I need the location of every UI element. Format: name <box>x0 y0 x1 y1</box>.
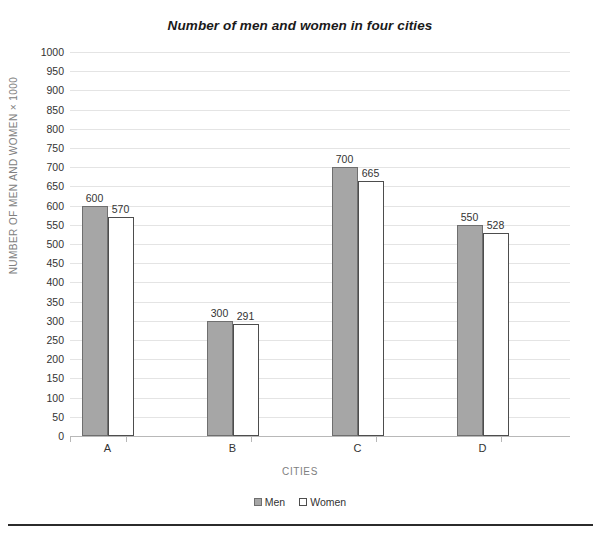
x-axis-tick <box>376 436 377 442</box>
bar-men-c <box>332 167 358 436</box>
y-axis-tick-label: 50 <box>28 412 64 422</box>
plot-area: 600570300291700665550528 <box>70 52 570 436</box>
y-axis-tick-label: 200 <box>28 354 64 364</box>
y-axis-tick-label: 600 <box>28 201 64 211</box>
x-axis-tick-label-b: B <box>203 442 263 454</box>
x-axis-tick-label-a: A <box>78 442 138 454</box>
y-axis-tick-label: 500 <box>28 239 64 249</box>
x-axis-tick <box>251 436 252 442</box>
bar-value-label: 528 <box>469 219 523 231</box>
gridline <box>70 186 570 187</box>
bar-value-label: 700 <box>318 153 372 165</box>
bar-value-label: 600 <box>68 192 122 204</box>
y-axis-tick-label: 150 <box>28 373 64 383</box>
y-axis-tick-label: 750 <box>28 143 64 153</box>
bar-men-a <box>82 206 108 436</box>
y-axis-tick-label: 650 <box>28 181 64 191</box>
y-axis-tick-label: 800 <box>28 124 64 134</box>
y-axis-tick-label: 900 <box>28 85 64 95</box>
x-axis-tick <box>70 436 71 442</box>
y-axis-tick-label: 950 <box>28 66 64 76</box>
y-axis-tick-label: 400 <box>28 277 64 287</box>
bar-value-label: 291 <box>219 310 273 322</box>
x-axis-tick-label-c: C <box>328 442 388 454</box>
legend-label: Women <box>310 496 346 508</box>
legend-swatch-icon <box>299 498 307 506</box>
y-axis-tick-label: 0 <box>28 431 64 441</box>
bar-women-b <box>233 324 259 436</box>
legend-swatch-icon <box>254 498 262 506</box>
bar-men-b <box>207 321 233 436</box>
legend-item-women[interactable]: Women <box>299 496 346 508</box>
bar-women-d <box>483 233 509 436</box>
bar-women-a <box>108 217 134 436</box>
legend-label: Men <box>265 496 285 508</box>
bar-value-label: 665 <box>344 167 398 179</box>
legend-item-men[interactable]: Men <box>254 496 285 508</box>
chart-legend: MenWomen <box>0 496 600 508</box>
x-axis-title: CITIES <box>0 466 600 477</box>
y-axis-title: NUMBER OF MEN AND WOMEN × 1000 <box>8 0 19 386</box>
y-axis-tick-label: 250 <box>28 335 64 345</box>
gridline <box>70 71 570 72</box>
gridline <box>70 436 570 437</box>
gridline <box>70 110 570 111</box>
y-axis-tick-label: 100 <box>28 393 64 403</box>
x-axis-tick <box>126 436 127 442</box>
bar-women-c <box>358 181 384 436</box>
x-axis-tick <box>501 436 502 442</box>
x-axis-tick-label-d: D <box>453 442 513 454</box>
chart-title: Number of men and women in four cities <box>0 18 600 33</box>
gridline <box>70 129 570 130</box>
y-axis-tick-label: 700 <box>28 162 64 172</box>
bottom-divider <box>8 524 593 526</box>
y-axis-tick-label: 450 <box>28 258 64 268</box>
gridline <box>70 148 570 149</box>
y-axis-tick-label: 350 <box>28 297 64 307</box>
bar-chart: Number of men and women in four cities 0… <box>0 0 600 538</box>
gridline <box>70 90 570 91</box>
y-axis-tick-label: 550 <box>28 220 64 230</box>
y-axis-tick-label: 300 <box>28 316 64 326</box>
bar-men-d <box>457 225 483 436</box>
gridline <box>70 52 570 53</box>
bar-value-label: 570 <box>94 203 148 215</box>
y-axis-tick-label: 850 <box>28 105 64 115</box>
gridline <box>70 167 570 168</box>
y-axis-tick-label: 1000 <box>28 47 64 57</box>
